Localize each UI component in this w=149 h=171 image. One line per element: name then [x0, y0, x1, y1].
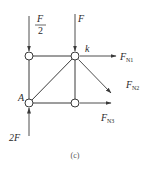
label-fn3-sub: N3	[107, 118, 114, 124]
label-fn1: F N1	[119, 51, 133, 63]
label-2f: 2F	[9, 132, 21, 143]
label-half-f-denominator: 2	[38, 25, 43, 36]
label-node-a: A	[17, 92, 25, 103]
node-top-left	[25, 52, 33, 60]
label-half-f-numerator: F	[36, 13, 44, 24]
label-fn1-sub: N1	[126, 57, 133, 63]
node-a	[25, 99, 33, 107]
label-fn3: F N3	[100, 112, 114, 124]
truss-free-body-diagram: F 2 F 2F k A F N1 F N2 F N3 (c)	[0, 0, 149, 171]
figure-caption: (c)	[71, 151, 80, 160]
member-diagonal	[29, 56, 75, 103]
label-f: F	[77, 13, 85, 24]
label-node-k: k	[85, 43, 90, 54]
force-fn2-arrow	[79, 60, 112, 94]
label-fn2-sub: N2	[132, 85, 139, 91]
label-fn2: F N2	[125, 79, 139, 91]
node-k	[71, 52, 79, 60]
node-bottom-right	[71, 99, 79, 107]
